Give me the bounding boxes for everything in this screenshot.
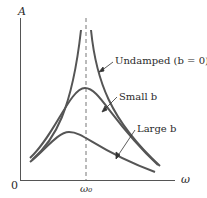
origin-label: 0 xyxy=(11,180,18,191)
y-axis-label: A xyxy=(18,6,26,17)
undamped-label: Undamped (b = 0) xyxy=(115,56,207,66)
omega0-label: ω₀ xyxy=(80,184,92,194)
x-axis-label: ω xyxy=(181,174,190,185)
resonance-plot xyxy=(0,0,207,198)
large-b-label: Large b xyxy=(137,124,176,134)
small-b-label: Small b xyxy=(119,92,157,102)
large-b-curve xyxy=(30,132,155,172)
